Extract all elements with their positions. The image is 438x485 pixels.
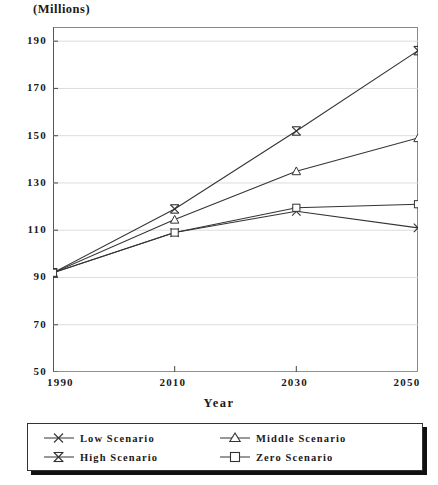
x-axis-tick-label: 2010 — [159, 376, 186, 388]
legend-label: Low Scenario — [80, 433, 155, 444]
x-cross-icon — [44, 430, 74, 446]
legend-item-high-scenario[interactable]: High Scenario — [44, 448, 158, 466]
legend-label: High Scenario — [80, 452, 158, 463]
y-axis-tick-label: 90 — [34, 270, 47, 282]
legend-item-middle-scenario[interactable]: Middle Scenario — [220, 429, 346, 447]
square-icon — [220, 449, 250, 465]
footer-caption — [0, 478, 438, 485]
y-axis-tick-label: 190 — [27, 34, 47, 46]
x-axis-title: Year — [0, 396, 438, 411]
data-series-layer — [53, 46, 418, 277]
legend-item-zero-scenario[interactable]: Zero Scenario — [220, 448, 333, 466]
legend-label: Zero Scenario — [256, 452, 333, 463]
y-axis-tick-labels: 507090110130150170190 — [0, 0, 47, 485]
x-axis-tick-marks — [175, 366, 297, 372]
bowtie-asterisk-icon — [44, 449, 74, 465]
chart-legend: Low Scenario High Scenario Middle Scenar… — [27, 423, 423, 471]
y-axis-tick-label: 70 — [34, 318, 47, 330]
legend-item-low-scenario[interactable]: Low Scenario — [44, 429, 155, 447]
y-axis-tick-label: 150 — [27, 129, 47, 141]
plot-canvas — [53, 27, 418, 372]
y-axis-tick-label: 50 — [34, 365, 47, 377]
y-axis-tick-label: 110 — [28, 223, 48, 235]
x-axis-tick-label: 1990 — [47, 376, 74, 388]
triangle-icon — [220, 430, 250, 446]
x-axis-tick-label: 2050 — [394, 376, 421, 388]
y-axis-tick-label: 170 — [27, 81, 47, 93]
y-axis-tick-label: 130 — [27, 176, 47, 188]
legend-label: Middle Scenario — [256, 433, 346, 444]
gridlines — [53, 41, 418, 372]
population-projection-chart: (Millions) 507090110130150170190 1990201… — [0, 0, 438, 485]
x-axis-tick-label: 2030 — [281, 376, 308, 388]
plot-area — [53, 27, 418, 372]
